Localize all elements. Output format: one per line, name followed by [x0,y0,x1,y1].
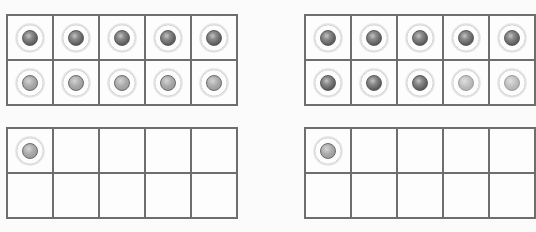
counter-icon [61,23,91,53]
counter-icon [405,68,435,98]
counter-icon [359,68,389,98]
ten-frame-cell [54,174,98,217]
ten-frame-cell [54,61,98,104]
ten-frame-cell [192,16,236,59]
ten-frame-cell [54,129,98,172]
ten-frame-right-bottom [304,127,536,219]
counter-icon [153,23,183,53]
counter-icon [199,68,229,98]
counter-icon [107,23,137,53]
counter-icon [15,68,45,98]
ten-frame-cell [490,61,534,104]
ten-frame-cell [444,16,488,59]
counter-icon [107,68,137,98]
ten-frame-cell [100,61,144,104]
ten-frame-cell [146,61,190,104]
counter-icon [313,68,343,98]
ten-frame-cell [490,174,534,217]
ten-frame-cell [306,174,350,217]
ten-frame-cell [352,16,396,59]
ten-frame-left-bottom [6,127,238,219]
counter-icon [199,23,229,53]
ten-frame-cell [490,16,534,59]
counter-icon [153,68,183,98]
ten-frame-cell [352,174,396,217]
ten-frame-cell [444,129,488,172]
counter-icon [497,68,527,98]
counter-icon [61,68,91,98]
ten-frame-cell [398,129,442,172]
counter-icon [451,68,481,98]
ten-frame-cell [192,129,236,172]
counter-icon [313,136,343,166]
ten-frame-cell [8,129,52,172]
ten-frame-left-top [6,14,238,106]
counter-icon [497,23,527,53]
ten-frame-cell [146,174,190,217]
ten-frame-cell [100,174,144,217]
ten-frame-cell [100,129,144,172]
counter-icon [15,136,45,166]
counter-icon [451,23,481,53]
ten-frame-cell [54,16,98,59]
ten-frame-cell [146,129,190,172]
ten-frame-right-top [304,14,536,106]
counter-icon [359,23,389,53]
ten-frame-cell [146,16,190,59]
ten-frame-cell [100,16,144,59]
ten-frame-cell [8,61,52,104]
ten-frame-cell [352,129,396,172]
ten-frame-cell [192,61,236,104]
counter-icon [405,23,435,53]
ten-frame-cell [8,174,52,217]
ten-frame-cell [306,61,350,104]
ten-frame-cell [490,129,534,172]
ten-frame-cell [398,61,442,104]
ten-frame-cell [8,16,52,59]
ten-frame-cell [306,16,350,59]
counter-icon [15,23,45,53]
ten-frame-cell [444,61,488,104]
ten-frame-cell [398,16,442,59]
ten-frame-cell [306,129,350,172]
ten-frame-cell [352,61,396,104]
ten-frame-cell [398,174,442,217]
ten-frame-cell [444,174,488,217]
ten-frame-cell [192,174,236,217]
counter-icon [313,23,343,53]
